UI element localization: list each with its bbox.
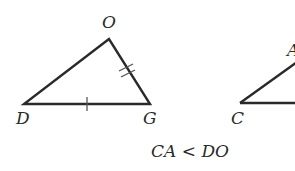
inequality-caption: CA < DO: [151, 141, 229, 161]
vertex-label-o: O: [102, 12, 116, 32]
diagram-svg: O D G C A CA < DO: [0, 0, 295, 171]
side-ca: [240, 60, 295, 103]
vertex-label-c: C: [231, 108, 244, 128]
vertex-label-g: G: [143, 108, 157, 128]
vertex-label-a: A: [285, 40, 295, 60]
vertex-label-d: D: [15, 108, 30, 128]
geometry-diagram: O D G C A CA < DO: [0, 0, 295, 171]
